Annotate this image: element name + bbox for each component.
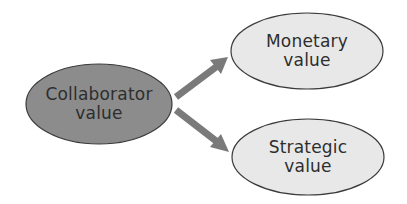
label-line: value <box>231 51 383 70</box>
label-line: Collaborator <box>26 85 172 104</box>
label-line: Monetary <box>231 32 383 51</box>
label-line: value <box>232 157 384 176</box>
label-line: value <box>26 104 172 123</box>
arrow-to-monetary-icon <box>176 57 228 97</box>
monetary-value-label: Monetary value <box>231 32 383 70</box>
collaborator-value-label: Collaborator value <box>26 85 172 123</box>
arrow-to-strategic-icon <box>176 110 229 152</box>
label-line: Strategic <box>232 138 384 157</box>
strategic-value-label: Strategic value <box>232 138 384 176</box>
